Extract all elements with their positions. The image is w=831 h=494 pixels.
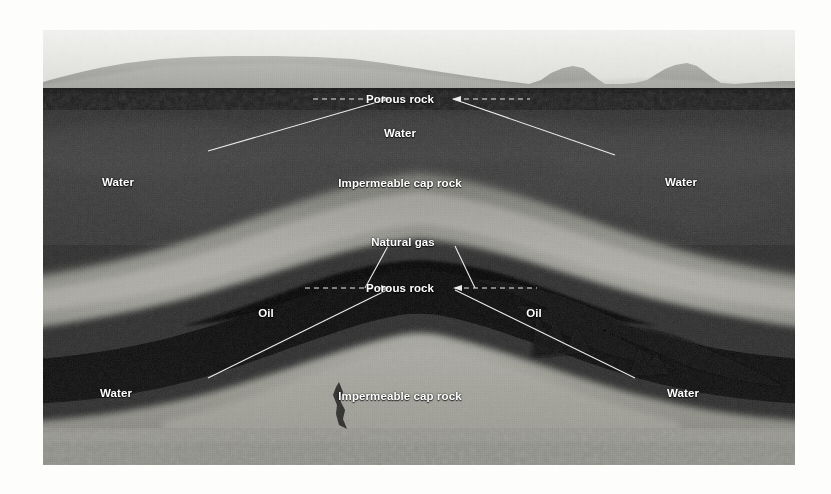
cross-section-svg xyxy=(43,30,795,465)
geological-cross-section-figure xyxy=(43,30,795,465)
page-canvas: Porous rock Water Water Water Impermeabl… xyxy=(0,0,831,494)
